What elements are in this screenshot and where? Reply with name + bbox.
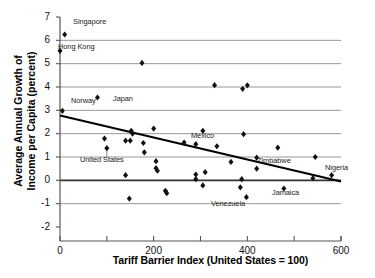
data-point-43 [127, 195, 132, 201]
plot-canvas [0, 0, 375, 278]
data-point-38 [238, 184, 243, 190]
regression-line [60, 115, 341, 181]
data-point-35 [239, 176, 244, 182]
data-points [58, 31, 335, 201]
point-label-zimbabwe: Zimbabwe [257, 156, 291, 165]
data-point-29 [254, 166, 259, 172]
data-point-34 [193, 176, 198, 182]
point-label-singapore: Singapore [73, 17, 106, 26]
point-label-japan: Japan [113, 94, 133, 103]
x-axis-title: Tariff Barrier Index (United States = 10… [46, 254, 375, 266]
data-point-37 [200, 182, 205, 188]
data-point-20 [275, 145, 280, 151]
data-point-5 [245, 82, 250, 88]
data-point-15 [128, 138, 133, 144]
data-point-2 [139, 60, 144, 66]
point-label-nigeria: Nigeria [325, 163, 348, 172]
point-label-venezuela: Venezuela [211, 199, 245, 208]
y-axis-title-line2: Income per Capita (percent) [25, 6, 38, 236]
data-point-singapore [62, 31, 67, 37]
data-point-22 [142, 149, 147, 155]
point-label-jamaica: Jamaica [272, 188, 299, 197]
axis-ticks [56, 17, 341, 241]
data-point-25 [154, 158, 159, 164]
point-label-united-states: United States [80, 155, 124, 164]
data-point-12 [241, 131, 246, 137]
data-point-30 [203, 169, 208, 175]
data-point-united-states [104, 145, 109, 151]
gridlines [60, 40, 341, 203]
y-axis-title-line1: Average Annual Growth of [12, 6, 25, 236]
data-point-26 [228, 159, 233, 165]
point-label-norway: Norway [71, 96, 96, 105]
data-point-19 [214, 143, 219, 149]
data-point-14 [123, 138, 128, 144]
data-point-16 [141, 140, 146, 146]
data-point-32 [123, 172, 128, 178]
scatter-chart-figure: -2-101234567 0200400600 SingaporeHong Ko… [0, 0, 375, 278]
data-point-13 [102, 135, 107, 141]
axis-lines [60, 17, 341, 241]
data-point-nigeria [329, 172, 334, 178]
trendline [60, 115, 341, 181]
y-axis-title: Average Annual Growth of Income per Capi… [12, 6, 46, 236]
point-label-hong-kong: Hong Kong [58, 42, 95, 51]
data-point-8 [151, 125, 156, 131]
point-label-mexico: Mexico [191, 131, 214, 140]
data-point-24 [313, 154, 318, 160]
